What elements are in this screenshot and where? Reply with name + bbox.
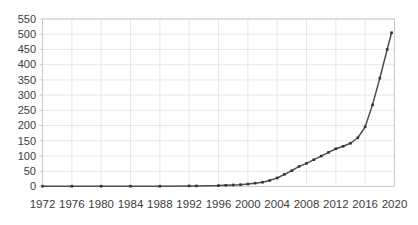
x-tick-label: 1976 <box>59 198 85 210</box>
y-tick-label: 450 <box>18 43 36 55</box>
y-tick-label: 400 <box>18 58 36 70</box>
data-point-marker <box>254 182 257 185</box>
x-tick-label: 1972 <box>30 198 56 210</box>
data-point-marker <box>371 104 374 107</box>
data-point-marker <box>247 183 250 186</box>
x-tick-label: 2012 <box>323 198 349 210</box>
data-point-marker <box>71 185 74 188</box>
data-point-marker <box>195 185 198 188</box>
y-tick-label: 150 <box>18 135 36 147</box>
y-tick-label: 50 <box>24 165 36 177</box>
data-point-marker <box>320 155 323 158</box>
data-point-marker <box>283 173 286 176</box>
data-point-marker <box>305 162 308 165</box>
data-point-marker <box>313 158 316 161</box>
data-point-marker <box>239 183 242 186</box>
data-point-marker <box>335 147 338 150</box>
line-chart-svg: 050100150200250300350400450500550 197219… <box>0 0 418 225</box>
y-tick-label: 300 <box>18 89 36 101</box>
data-point-marker <box>298 165 301 168</box>
data-point-marker <box>261 181 264 184</box>
y-axis-tick-labels: 050100150200250300350400450500550 <box>18 13 43 193</box>
y-tick-label: 200 <box>18 119 36 131</box>
y-tick-label: 0 <box>30 180 36 192</box>
data-point-marker <box>379 77 382 80</box>
data-point-marker <box>357 136 360 139</box>
data-point-marker <box>100 185 103 188</box>
data-point-marker <box>217 184 220 187</box>
data-series-line <box>43 33 392 187</box>
chart-container: 050100150200250300350400450500550 197219… <box>0 0 418 225</box>
y-tick-label: 500 <box>18 28 36 40</box>
data-point-marker <box>291 169 294 172</box>
x-tick-label: 1988 <box>147 198 173 210</box>
data-point-marker <box>225 184 228 187</box>
plot-area-wrapper: 050100150200250300350400450500550 197219… <box>0 0 418 225</box>
data-point-marker <box>129 185 132 188</box>
x-tick-label: 1984 <box>118 198 144 210</box>
data-point-marker <box>386 48 389 51</box>
x-tick-label: 1996 <box>206 198 232 210</box>
gridlines <box>43 19 395 187</box>
data-point-marker <box>390 31 393 34</box>
data-point-marker <box>364 126 367 129</box>
data-point-marker <box>269 179 272 182</box>
x-tick-label: 2020 <box>382 198 408 210</box>
data-point-marker <box>349 142 352 145</box>
data-point-marker <box>276 177 279 180</box>
data-point-marker <box>188 185 191 188</box>
x-tick-label: 1980 <box>88 198 114 210</box>
y-tick-label: 550 <box>18 13 36 25</box>
data-point-marker <box>159 185 162 188</box>
data-point-marker <box>327 151 330 154</box>
x-tick-label: 2004 <box>264 198 290 210</box>
data-point-markers <box>41 31 393 187</box>
series-line <box>43 33 392 187</box>
data-point-marker <box>342 145 345 148</box>
x-tick-label: 1992 <box>176 198 202 210</box>
y-tick-label: 100 <box>18 150 36 162</box>
y-tick-label: 250 <box>18 104 36 116</box>
x-tick-label: 2000 <box>235 198 261 210</box>
data-point-marker <box>41 185 44 188</box>
x-tick-label: 2016 <box>352 198 378 210</box>
data-point-marker <box>232 184 235 187</box>
x-axis-tick-labels: 1972197619801984198819921996200020042008… <box>30 198 408 210</box>
x-tick-label: 2008 <box>294 198 320 210</box>
y-tick-label: 350 <box>18 74 36 86</box>
